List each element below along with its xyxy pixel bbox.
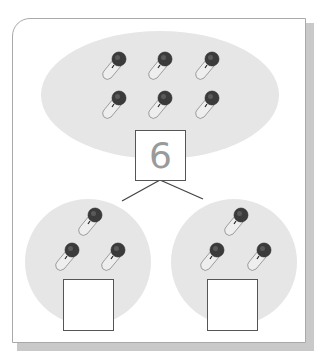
connector-left	[122, 180, 160, 201]
whole-number-box: 6	[135, 130, 186, 181]
connector-right	[160, 180, 203, 199]
left-part-answer-box[interactable]	[63, 279, 114, 331]
whole-number: 6	[149, 135, 172, 176]
right-part-answer-box[interactable]	[207, 279, 258, 331]
